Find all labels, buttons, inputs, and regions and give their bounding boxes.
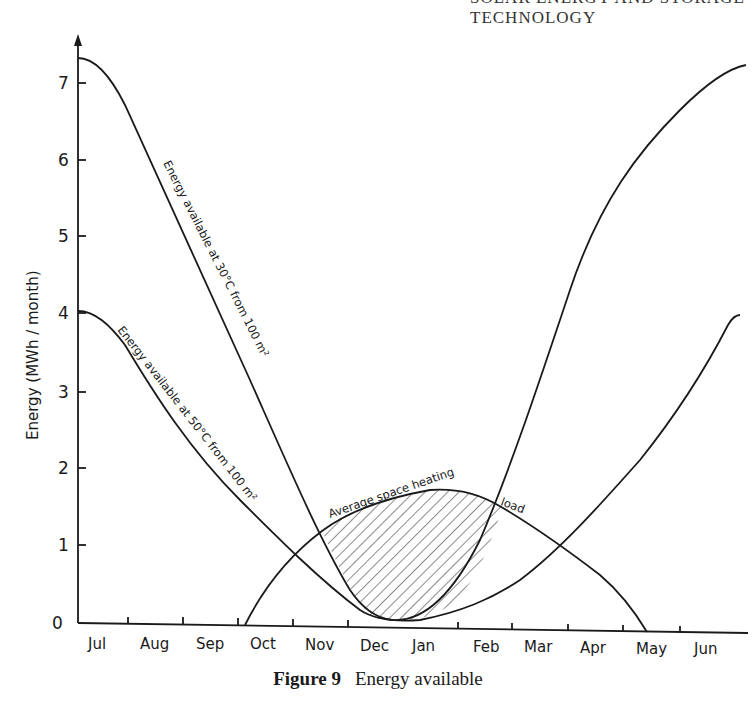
svg-text:Dec: Dec xyxy=(360,637,389,655)
y-axis-label: Energy (MWh / month) xyxy=(24,270,42,440)
svg-text:Sep: Sep xyxy=(196,635,224,653)
svg-text:2: 2 xyxy=(58,458,69,478)
hatched-surplus-area xyxy=(300,480,520,630)
label-curve-30c: Energy available at 30°C from 100 m² xyxy=(160,158,272,359)
month-labels: Jul Aug Sep Oct Nov Dec Jan Feb Mar Apr … xyxy=(87,635,717,658)
figure-caption: Figure 9Energy available xyxy=(0,668,756,690)
svg-text:Jul: Jul xyxy=(87,635,106,653)
svg-text:May: May xyxy=(636,640,667,658)
svg-text:Oct: Oct xyxy=(250,635,276,653)
svg-text:Aug: Aug xyxy=(140,635,169,653)
svg-text:Feb: Feb xyxy=(473,638,500,656)
label-curve-50c: Energy available at 50°C from 100 m² xyxy=(115,323,261,504)
svg-text:6: 6 xyxy=(58,150,69,170)
svg-text:5: 5 xyxy=(58,226,69,246)
svg-text:4: 4 xyxy=(58,303,69,323)
svg-text:3: 3 xyxy=(58,382,69,402)
figure-number: Figure 9 xyxy=(273,668,341,689)
y-ticks xyxy=(78,83,86,545)
energy-chart: 0 1 2 3 4 5 6 7 Jul Aug Sep Oct Nov Dec … xyxy=(0,0,756,705)
svg-text:Nov: Nov xyxy=(305,636,334,654)
y-tick-labels: 0 1 2 3 4 5 6 7 xyxy=(52,73,69,633)
svg-text:Jun: Jun xyxy=(693,640,717,658)
svg-text:Apr: Apr xyxy=(580,639,607,657)
y-axis-arrow-icon xyxy=(74,34,82,46)
figure-title: Energy available xyxy=(355,668,483,689)
svg-text:0: 0 xyxy=(52,613,63,633)
svg-text:1: 1 xyxy=(58,535,69,555)
svg-text:Jan: Jan xyxy=(411,637,435,655)
svg-text:Mar: Mar xyxy=(524,638,553,656)
svg-text:7: 7 xyxy=(58,73,69,93)
